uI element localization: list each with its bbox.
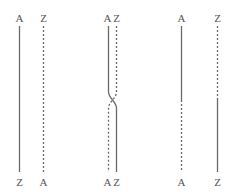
panel-3-top-left-label: A <box>178 13 186 24</box>
panel-1-bottom-right-label: A <box>40 177 48 188</box>
panel-1-top-right-label: Z <box>40 13 47 24</box>
panel-3-top-right-label: Z <box>214 13 221 24</box>
strand-diagram <box>0 0 238 196</box>
panel-1-bottom-left-label: Z <box>16 177 23 188</box>
panel-3-switched <box>182 26 218 172</box>
panel-2-bottom-left-label: A <box>104 177 112 188</box>
panel-3-bottom-left-label: A <box>178 177 186 188</box>
panel-1-top-left-label: A <box>16 13 24 24</box>
panel-2-bottom-right-label: Z <box>113 177 120 188</box>
panel-1-parallel <box>20 26 44 172</box>
panel-2-solid-strand <box>109 26 117 172</box>
panel-2-top-right-label: Z <box>113 13 120 24</box>
panel-2-top-left-label: A <box>104 13 112 24</box>
panel-3-bottom-right-label: Z <box>214 177 221 188</box>
panel-2-crossover <box>109 26 117 172</box>
